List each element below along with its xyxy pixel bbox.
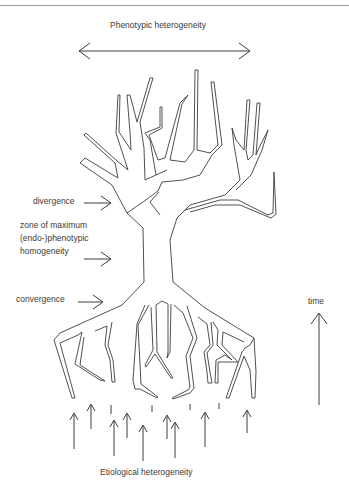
- tree-roots: [54, 301, 256, 399]
- upward-arrow-icon: [70, 413, 78, 449]
- upward-arrow-icon: [139, 425, 147, 461]
- upward-arrow-icon: [87, 404, 95, 429]
- tree-crown: [80, 70, 276, 218]
- upward-arrow-icon: [163, 415, 171, 439]
- time-arrow-icon: [311, 313, 327, 405]
- tree-trunk: [60, 213, 254, 338]
- phenotypic-heterogeneity-arrow-icon: [79, 43, 250, 59]
- tree-diagram: [0, 0, 349, 490]
- convergence-pointer-arrow-icon: [78, 295, 103, 309]
- upward-arrow-icon: [243, 410, 251, 433]
- etiological-arrows: [70, 403, 251, 461]
- upward-arrow-icon: [110, 420, 118, 456]
- upward-arrow-icon: [171, 422, 179, 458]
- upward-arrow-icon: [123, 413, 131, 438]
- divergence-pointer-arrow-icon: [84, 196, 111, 210]
- upward-arrow-icon: [201, 412, 209, 447]
- homogeneity-pointer-arrow-icon: [84, 252, 111, 266]
